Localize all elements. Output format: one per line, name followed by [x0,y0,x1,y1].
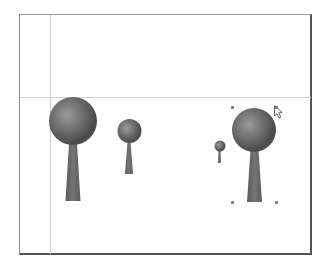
tree-crown [232,108,276,152]
tree-1[interactable] [49,97,97,201]
tree-crown [49,97,97,145]
canvas-scene [0,0,330,270]
tree-trunk [218,150,221,163]
tree-2[interactable] [118,119,142,174]
selection-handle-bottom-right[interactable] [275,201,278,204]
tree-crown [118,119,142,143]
tree-4-selected[interactable] [232,108,276,202]
tree-3[interactable] [215,141,226,164]
selection-handle-bottom-left[interactable] [231,201,234,204]
selection-handle-top-right[interactable] [275,106,278,109]
tree-crown [215,141,226,152]
tree-trunk [66,144,81,201]
selection-handle-top-left[interactable] [231,106,234,109]
tree-trunk [125,142,133,174]
tree-trunk [247,150,262,202]
